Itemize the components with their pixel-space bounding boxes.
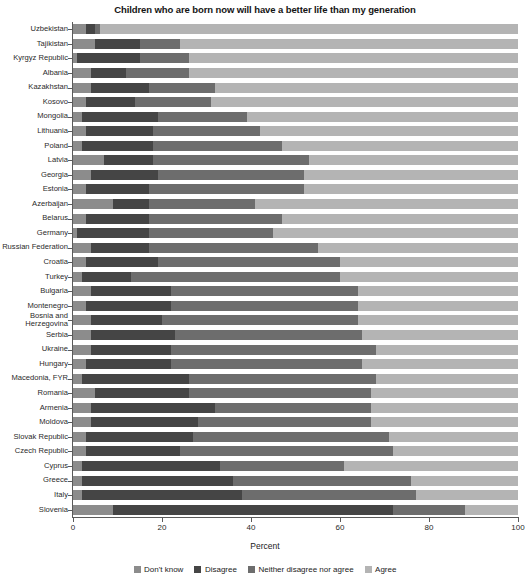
y-axis-label: Romania (2, 389, 68, 397)
bar-segment (73, 170, 91, 180)
bar-segment (82, 272, 131, 282)
bar-segment (82, 374, 189, 384)
bar-segment (149, 184, 305, 194)
bar-segment (73, 505, 113, 515)
legend-label: Don't know (144, 565, 183, 574)
bar-segment (86, 432, 193, 442)
bar-segment (86, 214, 148, 224)
bar-segment (233, 476, 411, 486)
bar-segment (86, 184, 148, 194)
bar-segment (73, 490, 82, 500)
legend-item[interactable]: Neither disagree nor agree (248, 565, 354, 574)
y-axis-label: Bosnia and Herzegovina (2, 312, 68, 327)
bar-row (73, 272, 518, 282)
bar-segment (86, 257, 157, 267)
y-axis-tick (68, 277, 72, 278)
y-axis-label: Turkey (2, 273, 68, 281)
y-axis-tick (68, 335, 72, 336)
y-axis-tick (68, 117, 72, 118)
bar-segment (73, 243, 91, 253)
bar-segment (73, 272, 82, 282)
bar-segment (273, 228, 518, 238)
y-axis-label: Georgia (2, 171, 68, 179)
bar-segment (149, 199, 256, 209)
bar-row (73, 301, 518, 311)
x-axis-tick (162, 518, 163, 522)
y-axis-tick (68, 466, 72, 467)
bar-row (73, 126, 518, 136)
bar-segment (171, 359, 362, 369)
bar-segment (344, 461, 518, 471)
bar-segment (77, 53, 139, 63)
bar-row (73, 461, 518, 471)
y-axis-label: Cyprus (2, 462, 68, 470)
bar-segment (358, 286, 518, 296)
bar-segment (376, 374, 518, 384)
y-axis-label: Uzbekistan (2, 25, 68, 33)
legend-swatch-icon (194, 566, 201, 573)
bar-segment (416, 490, 518, 500)
bar-segment (91, 330, 176, 340)
x-axis-tick (340, 518, 341, 522)
plot-area (73, 22, 518, 517)
y-axis-label: Tajikistan (2, 40, 68, 48)
bar-segment (220, 461, 345, 471)
bar-segment (362, 330, 518, 340)
x-axis-tick (73, 518, 74, 522)
bar-row (73, 214, 518, 224)
bar-row (73, 330, 518, 340)
bar-row (73, 170, 518, 180)
legend-item[interactable]: Disagree (194, 565, 237, 574)
y-axis-label: Moldova (2, 418, 68, 426)
y-axis-tick (68, 175, 72, 176)
bar-segment (140, 39, 180, 49)
bar-segment (82, 490, 242, 500)
y-axis-tick (68, 146, 72, 147)
x-axis-tick-label: 0 (58, 523, 88, 532)
legend-label: Neither disagree nor agree (258, 565, 353, 574)
y-axis-label: Lithuania (2, 127, 68, 135)
bar-segment (358, 301, 518, 311)
y-axis-tick (68, 422, 72, 423)
y-axis-tick (68, 204, 72, 205)
y-axis-tick (68, 29, 72, 30)
bar-segment (318, 243, 518, 253)
y-axis-tick (68, 393, 72, 394)
y-axis-tick (68, 437, 72, 438)
bar-segment (73, 97, 86, 107)
bar-segment (171, 301, 358, 311)
x-axis-tick-label: 100 (503, 523, 530, 532)
x-axis-title: Percent (0, 541, 530, 551)
y-axis-tick (68, 262, 72, 263)
bar-row (73, 155, 518, 165)
y-axis-tick (68, 88, 72, 89)
bar-segment (73, 345, 91, 355)
y-axis-label: Ukraine (2, 345, 68, 353)
bar-segment (135, 97, 211, 107)
y-axis-tick (68, 189, 72, 190)
bar-segment (189, 53, 518, 63)
y-axis-tick (68, 44, 72, 45)
y-axis-label: Latvia (2, 156, 68, 164)
bar-segment (389, 432, 518, 442)
y-axis-label: Albania (2, 69, 68, 77)
chart-title: Children who are born now will have a be… (0, 4, 530, 15)
bar-segment (95, 39, 140, 49)
bar-segment (91, 315, 162, 325)
bar-row (73, 476, 518, 486)
legend-item[interactable]: Don't know (134, 565, 184, 574)
bar-segment (73, 184, 86, 194)
legend-item[interactable]: Agree (365, 565, 397, 574)
bar-segment (73, 199, 113, 209)
bar-segment (73, 24, 86, 34)
bar-segment (215, 403, 371, 413)
bar-segment (91, 345, 171, 355)
bar-segment (100, 24, 518, 34)
bar-row (73, 83, 518, 93)
bar-segment (77, 228, 148, 238)
bar-segment (189, 388, 371, 398)
bar-segment (211, 97, 518, 107)
y-axis-tick (68, 160, 72, 161)
x-axis-tick-label: 80 (414, 523, 444, 532)
bar-segment (371, 403, 518, 413)
